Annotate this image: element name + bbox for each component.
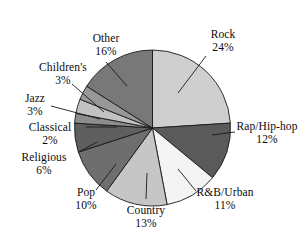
- slice-label-rnb: R&B/Urban 11%: [188, 186, 262, 211]
- slice-label-pop: Pop 10%: [66, 186, 106, 211]
- slice-label-classical-name: Classical: [18, 121, 82, 134]
- slice-label-rnb-name: R&B/Urban: [188, 186, 262, 199]
- slice-label-childrens-name: Children's: [28, 61, 98, 74]
- slice-label-jazz: Jazz 3%: [18, 92, 52, 117]
- slice-label-childrens: Children's 3%: [28, 61, 98, 86]
- slice-label-religious-percent: 6%: [12, 164, 76, 177]
- slice-label-rock: Rock 24%: [198, 28, 248, 53]
- slice-label-classical: Classical 2%: [18, 121, 82, 146]
- slice-label-jazz-name: Jazz: [18, 92, 52, 105]
- slice-label-other-name: Other: [82, 32, 130, 45]
- pie-slice-rock: [153, 50, 231, 128]
- slice-label-jazz-percent: 3%: [18, 105, 52, 118]
- slice-label-rock-name: Rock: [198, 28, 248, 41]
- slice-label-rnb-percent: 11%: [188, 199, 262, 212]
- slice-label-country: Country 13%: [118, 204, 174, 229]
- slice-label-country-name: Country: [118, 204, 174, 217]
- slice-label-pop-name: Pop: [66, 186, 106, 199]
- pie-chart: Rock 24% Rap/Hip-hop 12% R&B/Urban 11% C…: [0, 0, 306, 242]
- slice-label-classical-percent: 2%: [18, 134, 82, 147]
- slice-label-pop-percent: 10%: [66, 199, 106, 212]
- slice-label-rap-name: Rap/Hip-hop: [229, 120, 305, 133]
- slice-label-religious: Religious 6%: [12, 151, 76, 176]
- slice-label-other-percent: 16%: [82, 45, 130, 58]
- slice-label-rap: Rap/Hip-hop 12%: [229, 120, 305, 145]
- slice-label-rock-percent: 24%: [198, 41, 248, 54]
- slice-label-other: Other 16%: [82, 32, 130, 57]
- slice-label-religious-name: Religious: [12, 151, 76, 164]
- slice-label-childrens-percent: 3%: [28, 74, 98, 87]
- slice-label-rap-percent: 12%: [229, 133, 305, 146]
- slice-label-country-percent: 13%: [118, 217, 174, 230]
